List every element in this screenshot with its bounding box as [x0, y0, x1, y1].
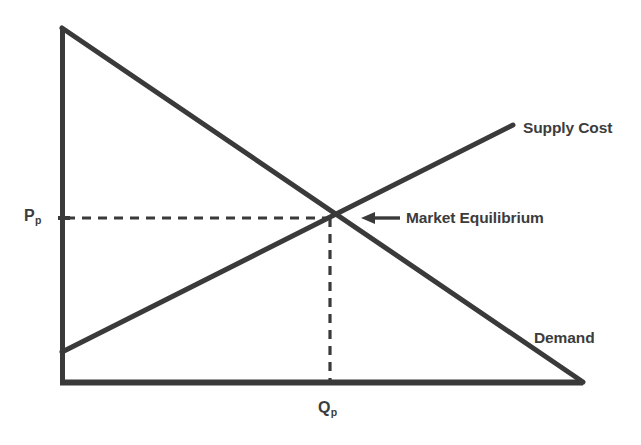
demand-label: Demand	[534, 330, 595, 346]
market-equilibrium-label: Market Equilibrium	[406, 210, 544, 226]
market-equilibrium-arrow	[361, 212, 400, 224]
quantity-axis-label: Qp	[318, 400, 337, 416]
arrow-head	[361, 212, 375, 224]
price-axis-label: Pp	[24, 208, 41, 224]
quantity-axis-subscript: p	[331, 406, 337, 418]
price-axis-symbol: P	[24, 207, 35, 224]
supply-cost-label: Supply Cost	[523, 120, 612, 136]
demand-curve	[62, 28, 583, 382]
quantity-axis-symbol: Q	[318, 399, 330, 416]
supply-cost-curve	[62, 125, 513, 352]
supply-and-demand-figure: Supply Cost Demand Market Equilibrium Pp…	[0, 0, 641, 445]
chart-canvas	[0, 0, 641, 445]
price-axis-subscript: p	[35, 214, 41, 226]
